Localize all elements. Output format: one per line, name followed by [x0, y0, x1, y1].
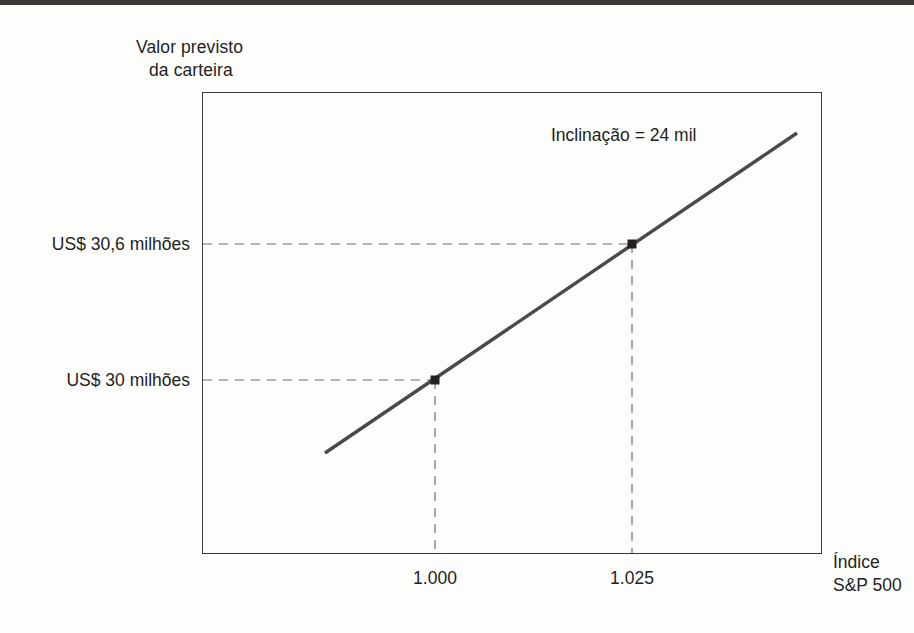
- y-tick-label-lower: US$ 30 milhões: [0, 370, 190, 390]
- chart-figure: Valor previstoda carteira US$ 30,6 milhõ…: [0, 0, 914, 633]
- x-axis-title-line1: Índice: [833, 552, 880, 572]
- data-point-marker-1: [431, 376, 440, 385]
- x-axis-title: ÍndiceS&P 500: [833, 551, 902, 597]
- x-axis-title-line2: S&P 500: [833, 575, 902, 595]
- slope-annotation: Inclinação = 24 mil: [551, 124, 696, 146]
- trend-line: [325, 133, 797, 453]
- y-tick-label-upper: US$ 30,6 milhões: [0, 234, 190, 254]
- x-tick-label-1025: 1.025: [572, 568, 692, 588]
- chart-vector-layer: [0, 0, 914, 633]
- data-point-marker-2: [628, 240, 637, 249]
- x-tick-label-1000: 1.000: [375, 568, 495, 588]
